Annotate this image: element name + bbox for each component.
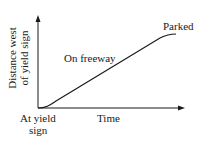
distance-curve: [38, 34, 176, 108]
origin-label-line-1: At yield: [20, 112, 56, 124]
y-axis-label-line-1: Distance west: [6, 19, 18, 97]
x-axis-label: Time: [97, 112, 120, 124]
annotation-parked: Parked: [163, 20, 194, 32]
y-axis-label-line-2: of yield sign: [18, 19, 30, 97]
annotation-on-freeway: On freeway: [64, 52, 116, 64]
y-axis-arrow-icon: [36, 15, 41, 22]
x-axis-arrow-icon: [178, 106, 185, 111]
y-axis-label: Distance west of yield sign: [6, 19, 30, 97]
origin-label-line-2: sign: [29, 124, 47, 136]
